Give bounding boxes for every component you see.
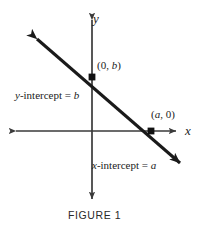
y-intercept-point-marker	[89, 74, 96, 81]
x-intercept-point-label: (a, 0)	[151, 109, 175, 120]
y-intercept-annotation: y-intercept = b	[15, 90, 79, 101]
coordinate-plane-graphic	[0, 0, 214, 231]
figure-container: y x (0, b) (a, 0) y-intercept = b x-inte…	[0, 0, 214, 231]
plotted-line	[37, 39, 180, 163]
x-intercept-point-marker	[148, 128, 155, 135]
y-axis-label: y	[93, 12, 99, 25]
x-intercept-annotation: x-intercept = a	[92, 160, 156, 171]
y-intercept-point-label: (0, b)	[97, 60, 121, 71]
x-axis-label: x	[185, 124, 191, 137]
figure-caption: FIGURE 1	[68, 209, 121, 221]
